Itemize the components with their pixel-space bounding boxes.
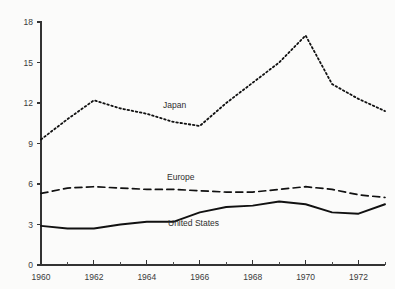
y-tick-label: 12 (24, 98, 34, 108)
series-label-europe: Europe (167, 172, 195, 182)
x-tick-label: 1960 (32, 272, 51, 282)
y-axis-tick-labels: 0369121518 (24, 17, 34, 270)
x-tick-label: 1964 (137, 272, 156, 282)
chart-series (41, 36, 385, 229)
series-label-united-states: United States (168, 218, 219, 228)
x-tick-label: 1972 (349, 272, 368, 282)
x-tick-label: 1966 (190, 272, 209, 282)
y-tick-label: 18 (24, 17, 34, 27)
y-tick-label: 0 (28, 260, 33, 270)
x-tick-label: 1968 (243, 272, 262, 282)
series-inline-labels: JapanEuropeUnited States (163, 100, 219, 228)
chart-canvas: 0369121518 1960196219641966196819701972 … (0, 0, 395, 289)
x-tick-label: 1962 (84, 272, 103, 282)
series-line-japan (41, 36, 385, 140)
y-tick-label: 9 (28, 139, 33, 149)
y-tick-label: 15 (24, 58, 34, 68)
x-tick-label: 1970 (296, 272, 315, 282)
series-line-europe (41, 187, 385, 198)
y-tick-label: 3 (28, 220, 33, 230)
series-label-japan: Japan (163, 100, 186, 110)
x-axis-tick-labels: 1960196219641966196819701972 (32, 272, 369, 282)
y-tick-label: 6 (28, 179, 33, 189)
line-chart: 0369121518 1960196219641966196819701972 … (0, 0, 395, 289)
